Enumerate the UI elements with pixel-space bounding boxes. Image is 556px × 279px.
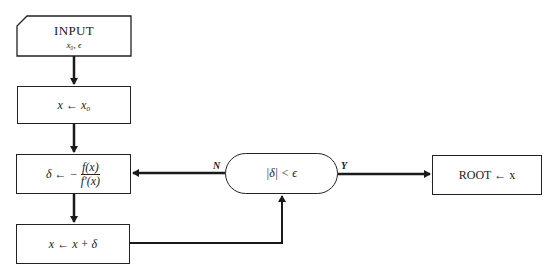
decision-node: |δ| < ϵ (225, 153, 338, 194)
delta-denominator: f′(x) (80, 175, 101, 188)
root-text: ROOT ← x (459, 168, 515, 183)
decision-text: |δ| < ϵ (266, 166, 297, 181)
delta-node: δ ← − f(x) f′(x) (16, 154, 131, 194)
no-label: N (213, 160, 220, 171)
yes-label: Y (341, 160, 347, 171)
input-title: INPUT (54, 23, 94, 39)
root-node: ROOT ← x (432, 155, 542, 195)
delta-numerator: f(x) (81, 161, 100, 175)
input-node: INPUT x₀, ϵ (17, 16, 131, 56)
input-vars: x₀, ϵ (66, 40, 81, 50)
init-node: x ← x₀ (17, 86, 131, 124)
init-text: x ← x₀ (58, 98, 91, 113)
update-text: x ← x + δ (49, 237, 97, 252)
edge-update-decision (130, 196, 282, 243)
delta-fraction: f(x) f′(x) (80, 161, 101, 188)
update-node: x ← x + δ (16, 224, 130, 264)
delta-lhs: δ ← − (46, 167, 78, 182)
